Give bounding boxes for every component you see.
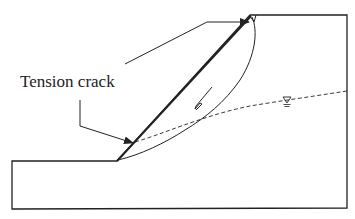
water-table-icon [283, 97, 291, 107]
tension-crack-label: Tension crack [20, 72, 115, 92]
slope-diagram [0, 0, 355, 219]
slope-face [117, 16, 251, 161]
movement-arrow-icon [195, 87, 212, 110]
lower-leader-arrow [80, 100, 133, 143]
upper-leader-arrow [125, 22, 249, 64]
water-table-line [135, 91, 347, 142]
ground-profile [12, 15, 347, 209]
